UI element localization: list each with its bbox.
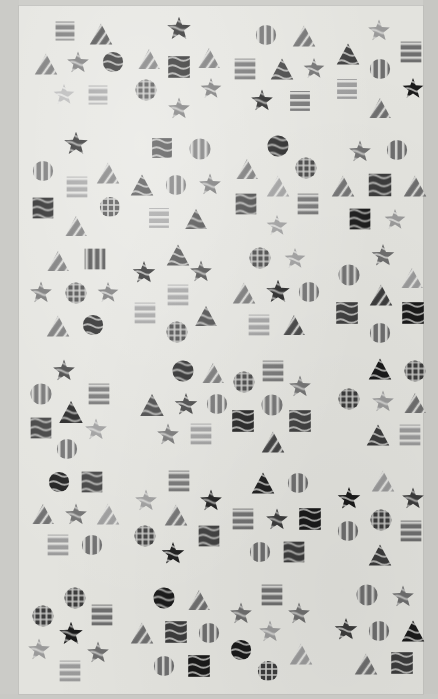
square-horizontal-stripes-icon — [56, 658, 83, 685]
cell-r5c3 — [221, 465, 322, 580]
star-scribble-icon — [62, 502, 89, 529]
triangle-diagonal-stripes-icon — [45, 247, 72, 274]
square-scribble-icon — [399, 299, 427, 327]
square-scribble-icon — [388, 649, 416, 677]
circle-grid-icon — [231, 369, 258, 396]
cell-r4c2 — [120, 350, 221, 465]
square-scribble-icon — [78, 468, 105, 495]
cell-r2c4 — [322, 121, 423, 236]
triangle-diagonal-stripes-icon — [128, 619, 156, 647]
triangle-diagonal-stripes-icon — [366, 95, 393, 122]
circle-vertical-stripes-icon — [151, 653, 177, 679]
circle-vertical-stripes-icon — [30, 158, 56, 184]
circle-grid-icon — [255, 658, 281, 684]
star-scribble-icon — [286, 373, 313, 400]
square-scribble-icon — [149, 135, 175, 161]
cell-r3c4 — [322, 235, 423, 350]
circle-vertical-stripes-icon — [54, 436, 80, 462]
star-scribble-icon — [159, 540, 187, 568]
circle-vertical-stripes-icon — [335, 518, 361, 544]
star-scribble-icon — [369, 388, 396, 415]
circle-vertical-stripes-icon — [384, 137, 410, 163]
square-horizontal-stripes-icon — [45, 531, 72, 558]
triangle-diagonal-stripes-icon — [162, 501, 190, 529]
cell-r1c4 — [322, 6, 423, 121]
star-scribble-icon — [285, 600, 312, 627]
cell-r5c2 — [120, 465, 221, 580]
circle-vertical-stripes-icon — [196, 620, 222, 646]
triangle-diagonal-stripes-icon — [259, 428, 287, 456]
triangle-scribble-icon — [334, 40, 362, 68]
triangle-diagonal-stripes-icon — [44, 312, 72, 340]
square-horizontal-stripes-icon — [165, 467, 192, 494]
circle-vertical-stripes-icon — [354, 582, 381, 609]
square-horizontal-stripes-icon — [85, 83, 110, 108]
star-scribble-icon — [84, 639, 111, 666]
cell-r5c4 — [322, 465, 423, 580]
cell-r4c3 — [221, 350, 322, 465]
star-scribble-icon — [64, 50, 91, 77]
shape-array-stage — [0, 0, 438, 699]
triangle-scribble-icon — [364, 421, 392, 449]
star-scribble-icon — [263, 506, 290, 533]
triangle-scribble-icon — [366, 355, 394, 383]
star-scribble-icon — [165, 96, 192, 123]
triangle-diagonal-stripes-icon — [230, 279, 258, 307]
star-scribble-icon — [172, 391, 200, 419]
circle-vertical-stripes-icon — [366, 618, 392, 644]
triangle-scribble-icon — [128, 171, 156, 199]
square-horizontal-stripes-icon — [246, 311, 273, 338]
star-scribble-icon — [369, 242, 397, 270]
circle-grid-icon — [163, 318, 190, 345]
square-horizontal-stripes-icon — [146, 205, 172, 231]
star-scribble-icon — [347, 138, 374, 165]
square-vertical-stripes-icon — [81, 246, 108, 273]
star-scribble-icon — [389, 583, 416, 610]
square-scribble-icon — [296, 505, 324, 533]
cell-r4c1 — [19, 350, 120, 465]
triangle-diagonal-stripes-icon — [185, 586, 212, 613]
circle-scribble-icon — [80, 312, 106, 338]
circle-vertical-stripes-icon — [285, 470, 311, 496]
star-scribble-icon — [28, 279, 55, 306]
triangle-scribble-icon — [366, 541, 394, 569]
star-scribble-icon — [82, 417, 109, 444]
paper-sheet — [19, 6, 423, 694]
circle-vertical-stripes-icon — [336, 262, 363, 289]
cell-r3c2 — [120, 235, 221, 350]
circle-grid-icon — [367, 506, 394, 533]
triangle-diagonal-stripes-icon — [367, 281, 395, 309]
triangle-diagonal-stripes-icon — [290, 22, 318, 50]
star-scribble-icon — [133, 488, 160, 515]
triangle-diagonal-stripes-icon — [401, 389, 428, 416]
circle-grid-icon — [97, 194, 123, 220]
square-horizontal-stripes-icon — [230, 505, 257, 532]
cell-r3c1 — [19, 235, 120, 350]
square-horizontal-stripes-icon — [132, 300, 159, 327]
star-scribble-icon — [228, 600, 255, 627]
triangle-scribble-icon — [399, 617, 427, 645]
triangle-scribble-icon — [249, 469, 277, 497]
circle-vertical-stripes-icon — [367, 56, 393, 82]
square-scribble-icon — [280, 538, 307, 565]
square-scribble-icon — [28, 414, 55, 441]
triangle-scribble-icon — [268, 55, 296, 83]
square-horizontal-stripes-icon — [53, 19, 78, 44]
star-scribble-icon — [56, 620, 85, 649]
star-scribble-icon — [399, 486, 426, 513]
square-horizontal-stripes-icon — [85, 380, 112, 407]
cell-r2c2 — [120, 121, 221, 236]
triangle-scribble-icon — [56, 397, 85, 426]
circle-vertical-stripes-icon — [296, 279, 322, 305]
cell-r1c1 — [19, 6, 120, 121]
square-scribble-icon — [162, 618, 190, 646]
star-scribble-icon — [263, 277, 292, 306]
shape-grid — [19, 6, 423, 694]
cell-r3c3 — [221, 235, 322, 350]
star-scribble-icon — [26, 637, 53, 664]
triangle-diagonal-stripes-icon — [401, 172, 429, 200]
square-scribble-icon — [333, 299, 361, 327]
triangle-scribble-icon — [138, 391, 167, 420]
triangle-diagonal-stripes-icon — [280, 311, 307, 338]
cell-r5c1 — [19, 465, 120, 580]
